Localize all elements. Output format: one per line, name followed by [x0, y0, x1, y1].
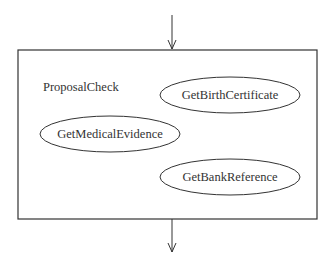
activity-get-birth-certificate[interactable]: GetBirthCertificate: [160, 77, 300, 113]
activity-get-bank-reference[interactable]: GetBankReference: [160, 159, 300, 195]
activity-label: GetBirthCertificate: [182, 88, 279, 102]
incoming-arrow: [168, 15, 176, 49]
container-label: ProposalCheck: [43, 80, 119, 94]
activity-label: GetMedicalEvidence: [57, 127, 163, 141]
process-diagram: ProposalCheck GetBirthCertificate GetMed…: [0, 0, 331, 266]
activity-get-medical-evidence[interactable]: GetMedicalEvidence: [40, 116, 180, 152]
outgoing-arrow: [168, 219, 176, 252]
activity-label: GetBankReference: [182, 170, 278, 184]
